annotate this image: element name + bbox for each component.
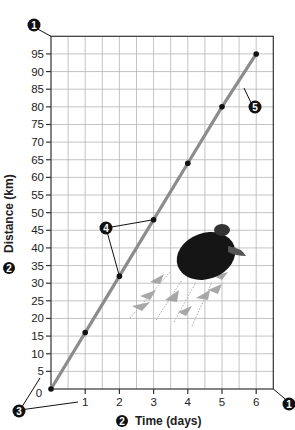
y-tick-label: 55 bbox=[31, 189, 44, 201]
data-point bbox=[253, 51, 259, 57]
distance-time-chart: 1234560510152025303540455055606570758085… bbox=[0, 0, 295, 430]
y-tick-label: 10 bbox=[31, 348, 44, 360]
y-axis-title-group: 2 Distance (km) bbox=[2, 174, 16, 274]
x-axis-title-group: 2 Time (days) bbox=[116, 414, 201, 428]
turtle-flipper-shadows bbox=[132, 272, 228, 316]
data-point bbox=[185, 160, 191, 166]
x-tick-label: 3 bbox=[150, 396, 156, 408]
y-tick-label: 30 bbox=[31, 277, 44, 289]
callout-leader-line bbox=[106, 228, 119, 276]
data-point bbox=[219, 104, 225, 110]
y-tick-label: 75 bbox=[31, 118, 44, 130]
callout-2-y-label: 2 bbox=[6, 263, 12, 274]
callout-3-label: 3 bbox=[16, 406, 22, 417]
x-origin-label: 0 bbox=[36, 387, 42, 399]
data-point bbox=[48, 386, 54, 392]
x-tick-label: 5 bbox=[219, 396, 225, 408]
callout-leader-line bbox=[106, 220, 154, 228]
data-point bbox=[82, 330, 88, 336]
y-tick-label: 5 bbox=[38, 365, 44, 377]
turtle-shell bbox=[170, 224, 242, 288]
callout-2-x-label: 2 bbox=[119, 416, 125, 427]
y-tick-label: 25 bbox=[31, 295, 44, 307]
y-tick-label: 15 bbox=[31, 330, 44, 342]
x-tick-label: 4 bbox=[185, 396, 192, 408]
turtle-head bbox=[214, 224, 230, 236]
y-axis-title: Distance (km) bbox=[2, 174, 16, 253]
y-tick-label: 20 bbox=[31, 312, 44, 324]
y-tick-label: 90 bbox=[31, 66, 44, 78]
y-tick-label: 40 bbox=[31, 242, 44, 254]
x-tick-label: 1 bbox=[82, 396, 88, 408]
y-tick-label: 65 bbox=[31, 154, 44, 166]
callout-5-label: 5 bbox=[252, 102, 258, 113]
y-tick-label: 60 bbox=[31, 171, 44, 183]
x-tick-label: 2 bbox=[116, 396, 122, 408]
callout-1-bottom-label: 1 bbox=[286, 399, 292, 410]
y-tick-label: 35 bbox=[31, 260, 44, 272]
callout-1-top-label: 1 bbox=[31, 20, 37, 31]
y-tick-label: 45 bbox=[31, 224, 44, 236]
y-tick-label: 95 bbox=[31, 48, 44, 60]
callout-leader-line bbox=[20, 402, 78, 410]
callout-4-label: 4 bbox=[103, 223, 109, 234]
x-axis-title: Time (days) bbox=[135, 414, 201, 428]
y-tick-label: 50 bbox=[31, 207, 44, 219]
y-tick-label: 85 bbox=[31, 83, 44, 95]
x-tick-label: 6 bbox=[253, 396, 259, 408]
y-tick-label: 70 bbox=[31, 136, 44, 148]
y-tick-label: 80 bbox=[31, 101, 44, 113]
